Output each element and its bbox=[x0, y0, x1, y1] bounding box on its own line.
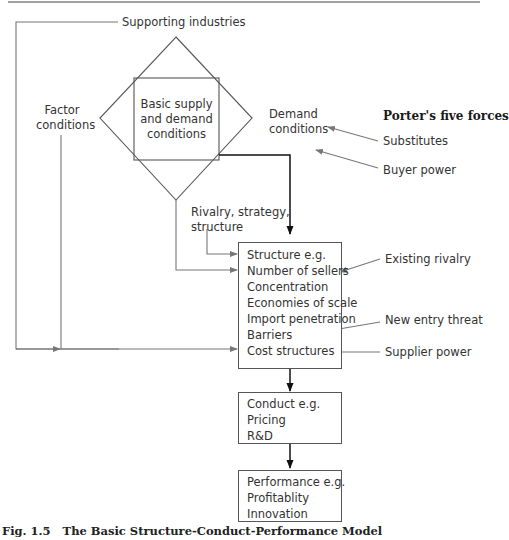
rivalry-label: Rivalry, strategy, structure bbox=[191, 205, 290, 235]
factor-line-2: conditions bbox=[36, 118, 88, 133]
structure-box: Structure e.g. Number of sellers Concent… bbox=[238, 242, 342, 369]
supplier-power-label: Supplier power bbox=[385, 345, 472, 360]
conduct-line: R&D bbox=[247, 428, 341, 444]
structure-line: Barriers bbox=[247, 327, 341, 343]
conduct-box: Conduct e.g. Pricing R&D bbox=[238, 392, 342, 444]
performance-box: Performance e.g. Profitablity Innovation bbox=[238, 470, 342, 522]
basic-line-2: and demand bbox=[134, 112, 219, 127]
basic-conditions-label: Basic supply and demand conditions bbox=[134, 97, 219, 142]
structure-line: Number of sellers bbox=[247, 263, 341, 279]
buyer-power-label: Buyer power bbox=[383, 163, 456, 178]
factor-conditions-label: Factor conditions bbox=[36, 103, 88, 133]
structure-line: Structure e.g. bbox=[247, 247, 341, 263]
substitutes-label: Substitutes bbox=[383, 134, 448, 149]
substitutes-arrow bbox=[328, 127, 378, 141]
basic-line-3: conditions bbox=[134, 127, 219, 142]
caption-label: Fig. 1.5 bbox=[2, 524, 51, 538]
demand-line-1: Demand bbox=[269, 107, 328, 122]
performance-line: Profitablity bbox=[247, 490, 341, 506]
supporting-industries-label: Supporting industries bbox=[122, 15, 245, 30]
performance-line: Performance e.g. bbox=[247, 474, 341, 490]
buyer-power-arrow bbox=[316, 150, 378, 168]
demand-conditions-label: Demand conditions bbox=[269, 107, 328, 137]
conduct-line: Conduct e.g. bbox=[247, 396, 341, 412]
factor-conditions-connector bbox=[61, 135, 237, 349]
supporting-industries-connector bbox=[16, 22, 119, 349]
existing-rivalry-label: Existing rivalry bbox=[385, 252, 471, 267]
porter-five-forces-title: Porter's five forces bbox=[383, 109, 509, 124]
structure-line: Import penetration bbox=[247, 311, 341, 327]
conduct-line: Pricing bbox=[247, 412, 341, 428]
performance-line: Innovation bbox=[247, 506, 341, 522]
basic-line-1: Basic supply bbox=[134, 97, 219, 112]
rivalry-line-1: Rivalry, strategy, bbox=[191, 205, 290, 220]
new-entry-threat-label: New entry threat bbox=[385, 313, 483, 328]
structure-line: Economies of scale bbox=[247, 295, 341, 311]
caption-title: The Basic Structure-Conduct-Performance … bbox=[63, 524, 383, 538]
rivalry-line-2: structure bbox=[191, 220, 290, 235]
figure-caption: Fig. 1.5 The Basic Structure-Conduct-Per… bbox=[2, 524, 382, 538]
structure-line: Concentration bbox=[247, 279, 341, 295]
structure-line: Cost structures bbox=[247, 343, 341, 359]
demand-line-2: conditions bbox=[269, 122, 328, 137]
factor-line-1: Factor bbox=[36, 103, 88, 118]
